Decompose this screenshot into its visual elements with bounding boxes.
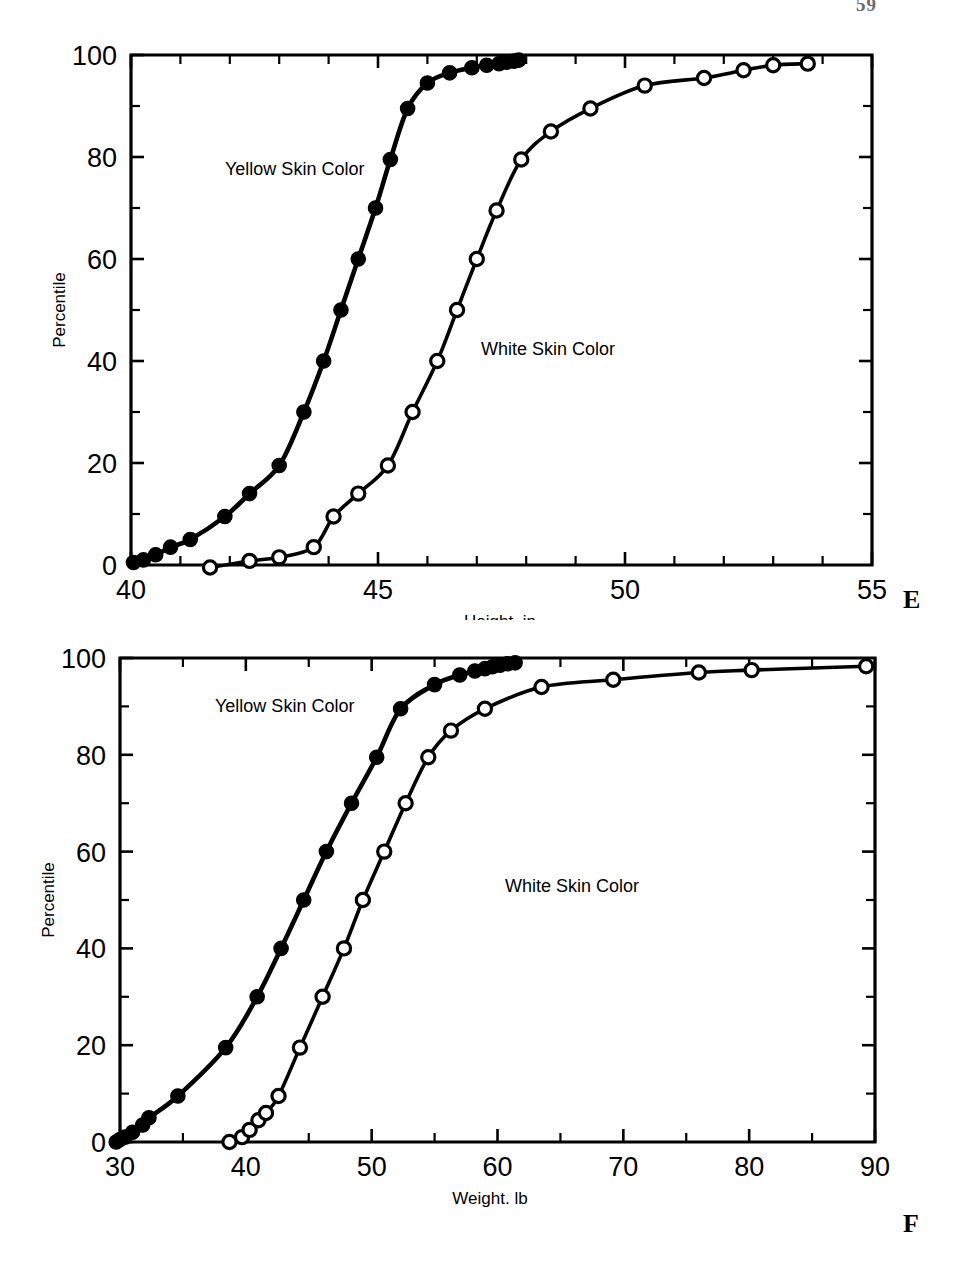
data-point-white bbox=[352, 487, 365, 500]
data-point-white bbox=[337, 942, 350, 955]
data-point-yellow bbox=[272, 458, 286, 472]
data-point-white bbox=[327, 510, 340, 523]
data-point-yellow bbox=[274, 941, 288, 955]
y-tick-label: 0 bbox=[91, 1128, 106, 1158]
data-point-white bbox=[860, 660, 873, 673]
data-point-white bbox=[450, 303, 463, 316]
y-tick-label: 20 bbox=[87, 449, 117, 479]
data-point-yellow bbox=[297, 893, 311, 907]
data-point-yellow bbox=[351, 252, 365, 266]
y-axis-title: Percentile bbox=[39, 862, 58, 938]
data-point-white bbox=[490, 204, 503, 217]
y-tick-label: 0 bbox=[102, 551, 117, 581]
data-point-white bbox=[470, 252, 483, 265]
data-point-yellow bbox=[242, 486, 256, 500]
data-point-yellow bbox=[297, 405, 311, 419]
data-point-yellow bbox=[319, 844, 333, 858]
data-point-white bbox=[406, 405, 419, 418]
axis-frame bbox=[120, 658, 875, 1142]
height-percentile-chart: 40455055020406080100Height, inPercentile… bbox=[0, 0, 900, 620]
data-point-yellow bbox=[400, 101, 414, 115]
data-point-white bbox=[697, 71, 710, 84]
series-annotation-yellow: Yellow Skin Color bbox=[225, 159, 364, 179]
x-tick-label: 55 bbox=[857, 575, 887, 605]
data-point-white bbox=[273, 551, 286, 564]
x-tick-label: 45 bbox=[363, 575, 393, 605]
series-line-white bbox=[210, 64, 808, 568]
y-tick-label: 100 bbox=[72, 41, 117, 71]
x-tick-label: 30 bbox=[105, 1152, 135, 1182]
data-point-white bbox=[478, 702, 491, 715]
data-point-white bbox=[259, 1106, 272, 1119]
y-tick-label: 20 bbox=[76, 1031, 106, 1061]
series-line-white bbox=[229, 666, 866, 1142]
data-point-yellow bbox=[512, 53, 526, 67]
data-point-white bbox=[544, 125, 557, 138]
data-point-white bbox=[381, 459, 394, 472]
y-tick-label: 60 bbox=[87, 245, 117, 275]
panel-letter-E: E bbox=[903, 585, 920, 615]
data-point-white bbox=[638, 79, 651, 92]
data-point-yellow bbox=[219, 1040, 233, 1054]
data-point-white bbox=[399, 797, 412, 810]
data-point-white bbox=[203, 561, 216, 574]
data-point-yellow bbox=[383, 152, 397, 166]
weight-percentile-chart: 30405060708090020406080100Weight. lbPerc… bbox=[0, 620, 900, 1260]
data-point-white bbox=[584, 102, 597, 115]
data-point-white bbox=[243, 554, 256, 567]
x-axis-title: Height, in bbox=[464, 612, 536, 620]
x-tick-label: 90 bbox=[860, 1152, 890, 1182]
data-point-yellow bbox=[183, 532, 197, 546]
data-point-white bbox=[422, 751, 435, 764]
data-point-yellow bbox=[316, 354, 330, 368]
data-point-yellow bbox=[508, 656, 522, 670]
data-point-white bbox=[272, 1089, 285, 1102]
panel-letter-F: F bbox=[903, 1209, 919, 1239]
data-point-white bbox=[607, 673, 620, 686]
data-point-yellow bbox=[368, 201, 382, 215]
y-tick-label: 80 bbox=[76, 741, 106, 771]
x-tick-label: 70 bbox=[608, 1152, 638, 1182]
data-point-yellow bbox=[427, 677, 441, 691]
x-tick-label: 40 bbox=[116, 575, 146, 605]
x-tick-label: 80 bbox=[734, 1152, 764, 1182]
data-point-yellow bbox=[163, 540, 177, 554]
data-point-yellow bbox=[218, 509, 232, 523]
data-point-yellow bbox=[420, 76, 434, 90]
data-point-yellow bbox=[393, 702, 407, 716]
y-tick-label: 40 bbox=[87, 347, 117, 377]
data-point-white bbox=[378, 845, 391, 858]
y-tick-label: 100 bbox=[61, 644, 106, 674]
data-point-white bbox=[444, 724, 457, 737]
data-point-white bbox=[692, 666, 705, 679]
data-point-white bbox=[767, 59, 780, 72]
y-tick-label: 80 bbox=[87, 143, 117, 173]
series-annotation-white: White Skin Color bbox=[481, 339, 615, 359]
data-point-yellow bbox=[453, 668, 467, 682]
series-annotation-yellow: Yellow Skin Color bbox=[215, 696, 354, 716]
data-point-yellow bbox=[149, 548, 163, 562]
x-axis-title: Weight. lb bbox=[452, 1189, 527, 1208]
data-point-white bbox=[316, 990, 329, 1003]
data-point-yellow bbox=[465, 61, 479, 75]
axis-frame bbox=[131, 55, 872, 565]
series-annotation-white: White Skin Color bbox=[505, 876, 639, 896]
data-point-white bbox=[356, 893, 369, 906]
x-tick-label: 40 bbox=[231, 1152, 261, 1182]
x-tick-label: 50 bbox=[357, 1152, 387, 1182]
data-point-yellow bbox=[344, 796, 358, 810]
data-point-white bbox=[431, 354, 444, 367]
data-point-white bbox=[737, 64, 750, 77]
data-point-white bbox=[801, 57, 814, 70]
chart-panel-E: 40455055020406080100Height, inPercentile… bbox=[0, 0, 900, 620]
data-point-yellow bbox=[370, 750, 384, 764]
data-point-white bbox=[535, 680, 548, 693]
data-point-yellow bbox=[442, 66, 456, 80]
data-point-yellow bbox=[171, 1089, 185, 1103]
x-tick-label: 60 bbox=[482, 1152, 512, 1182]
data-point-white bbox=[745, 664, 758, 677]
data-point-white bbox=[515, 153, 528, 166]
chart-panel-F: 30405060708090020406080100Weight. lbPerc… bbox=[0, 620, 900, 1260]
document-page: 59 40455055020406080100Height, inPercent… bbox=[0, 0, 968, 1266]
data-point-white bbox=[293, 1041, 306, 1054]
